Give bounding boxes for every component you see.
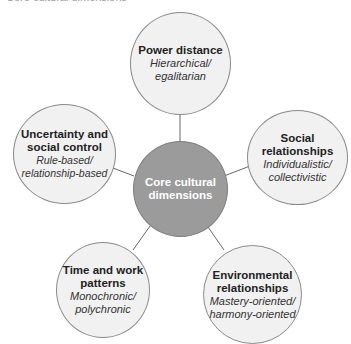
node-subtitle: Mastery-oriented/ harmony-oriented [209,295,297,321]
node-environmental-relationships: Environmental relationships Mastery-orie… [203,245,302,344]
node-subtitle: Rule-based/ relationship-based [17,154,113,180]
node-social-relationships: Social relationships Individualistic/ co… [247,110,348,205]
node-title: Time and work patterns [61,264,145,290]
core-title: Core cultural dimensions [142,176,220,202]
node-title: Uncertainty and social control [19,128,111,154]
node-subtitle: Hierarchical/ egalitarian [146,57,216,83]
node-subtitle: Monochronic/ polychronic [66,290,140,316]
node-uncertainty-social-control: Uncertainty and social control Rule-base… [13,104,116,204]
node-power-distance: Power distance Hierarchical/ egalitarian [130,12,231,115]
node-title: Social relationships [258,132,338,158]
node-title: Power distance [138,44,222,57]
node-core-cultural-dimensions: Core cultural dimensions [133,141,228,237]
node-title: Environmental relationships [207,269,299,295]
node-time-work-patterns: Time and work patterns Monochronic/ poly… [56,242,150,338]
node-subtitle: Individualistic/ collectivistic [257,158,339,184]
